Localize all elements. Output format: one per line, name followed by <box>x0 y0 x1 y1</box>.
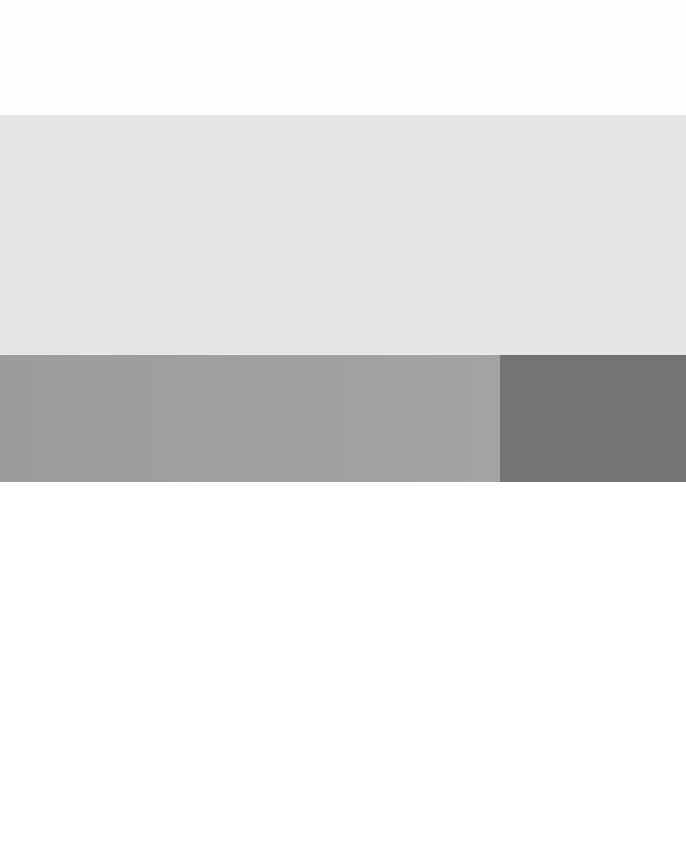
bottom-blank-area <box>0 482 686 862</box>
mid-gray-panel <box>0 355 500 482</box>
dark-gray-panel <box>500 355 686 482</box>
top-blank-area <box>0 0 686 115</box>
light-gray-panel <box>0 115 686 355</box>
